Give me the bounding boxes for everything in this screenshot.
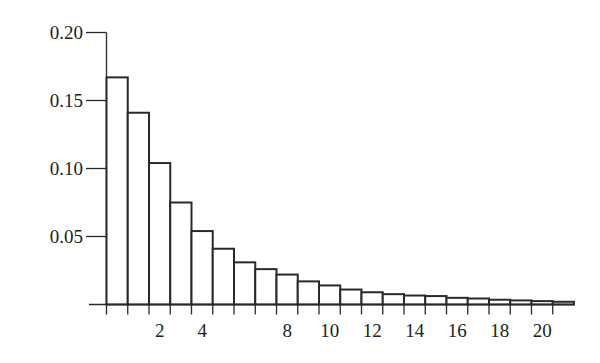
- x-tick-label: 4: [197, 320, 207, 341]
- bar: [128, 113, 149, 305]
- bar: [234, 262, 255, 304]
- bars: [107, 77, 575, 304]
- x-tick-label: 20: [533, 320, 552, 341]
- bar: [362, 292, 383, 304]
- bar: [255, 269, 276, 304]
- y-tick-label: 0.15: [50, 90, 83, 111]
- x-tick-label: 10: [320, 320, 339, 341]
- bar: [107, 77, 128, 304]
- bar: [298, 281, 319, 304]
- bar: [404, 296, 425, 305]
- bar: [319, 285, 340, 304]
- x-axis: 248101214161820: [89, 305, 574, 342]
- bar: [192, 231, 213, 304]
- x-tick-label: 8: [282, 320, 292, 341]
- bar: [149, 163, 170, 304]
- bar: [489, 300, 510, 305]
- x-tick-label: 16: [448, 320, 467, 341]
- x-tick-label: 2: [155, 320, 165, 341]
- bar: [425, 296, 446, 304]
- bar-chart: 0.050.100.150.20 248101214161820: [0, 0, 600, 363]
- bar: [170, 203, 191, 305]
- bar: [383, 294, 404, 304]
- x-tick-label: 14: [405, 320, 425, 341]
- y-axis: 0.050.100.150.20: [50, 22, 107, 305]
- y-tick-label: 0.20: [50, 22, 83, 43]
- bar: [277, 275, 298, 305]
- x-tick-label: 12: [363, 320, 382, 341]
- bar: [340, 290, 361, 305]
- x-tick-label: 18: [490, 320, 509, 341]
- bar: [213, 249, 234, 305]
- bar: [468, 299, 489, 305]
- y-tick-label: 0.05: [50, 226, 83, 247]
- y-tick-label: 0.10: [50, 158, 83, 179]
- bar: [447, 298, 468, 305]
